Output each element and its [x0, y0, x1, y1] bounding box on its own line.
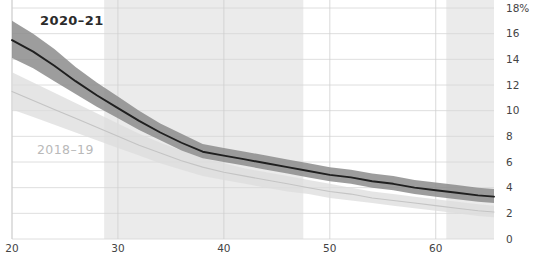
line-chart: 024681012141618% 2030405060 — [0, 0, 557, 262]
x-axis-tick-labels: 2030405060 — [5, 242, 442, 254]
series-label-2018-19: 2018–19 — [37, 142, 94, 157]
x-tick-label: 40 — [217, 242, 230, 254]
x-tick-label: 30 — [111, 242, 124, 254]
y-tick-label: 18% — [506, 2, 529, 14]
y-tick-label: 4 — [506, 181, 513, 193]
y-tick-label: 16 — [506, 27, 520, 39]
x-tick-label: 50 — [323, 242, 336, 254]
y-tick-label: 8 — [506, 130, 513, 142]
y-tick-label: 2 — [506, 207, 513, 219]
y-tick-label: 10 — [506, 104, 519, 116]
chart-container: 024681012141618% 2030405060 2020–21 2018… — [0, 0, 557, 262]
y-tick-label: 14 — [506, 53, 520, 65]
y-tick-label: 0 — [506, 233, 513, 245]
y-tick-label: 6 — [506, 156, 513, 168]
x-tick-label: 60 — [429, 242, 442, 254]
y-tick-label: 12 — [506, 79, 519, 91]
y-axis-tick-labels: 024681012141618% — [506, 2, 529, 245]
series-label-2020-21: 2020–21 — [40, 13, 104, 28]
x-tick-label: 20 — [5, 242, 18, 254]
